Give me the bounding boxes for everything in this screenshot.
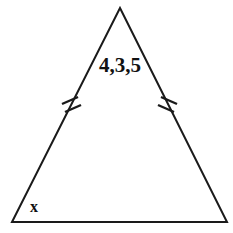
triangle-diagram-svg: 4,3,5 x: [0, 0, 233, 233]
angle-label-x: x: [30, 198, 38, 215]
side-lengths-label: 4,3,5: [99, 53, 141, 77]
geometry-figure: 4,3,5 x: [0, 0, 233, 233]
